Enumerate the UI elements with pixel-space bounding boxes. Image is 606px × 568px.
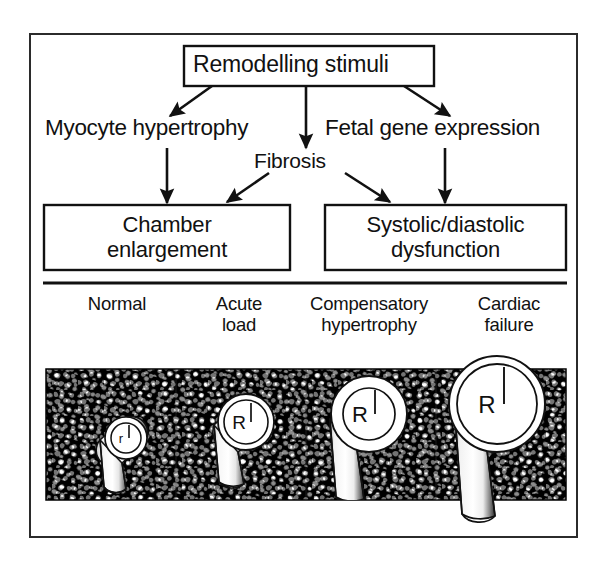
figure-outer-frame — [29, 33, 578, 538]
chamber-enlargement-label-group: Chamber enlargement — [44, 205, 290, 270]
mediator-fibrosis-label: Fibrosis — [254, 149, 326, 173]
stage-caption-normal: Normal — [62, 294, 172, 315]
stage-caption-compensatory: Compensatory hypertrophy — [285, 294, 453, 335]
stage-caption-compensatory-line2: hypertrophy — [321, 315, 417, 336]
mediator-fetal-gene-expression-label: Fetal gene expression — [325, 115, 540, 140]
stage-caption-acute-load-line1: Acute — [216, 294, 262, 315]
mediator-myocyte-hypertrophy-label: Myocyte hypertrophy — [45, 115, 248, 140]
chamber-enlargement-line1: Chamber — [122, 213, 211, 238]
stage-caption-acute-load-line2: load — [222, 315, 256, 336]
remodelling-stimuli-label: Remodelling stimuli — [193, 52, 389, 78]
stage-caption-compensatory-line1: Compensatory — [310, 294, 428, 315]
figure-root: r R — [0, 0, 606, 568]
chamber-enlargement-line2: enlargement — [107, 238, 227, 263]
stage-caption-normal-line1: Normal — [88, 294, 146, 315]
dysfunction-label-group: Systolic/diastolic dysfunction — [325, 205, 566, 270]
stage-caption-cardiac-failure-line2: failure — [485, 315, 534, 336]
stage-caption-cardiac-failure: Cardiac failure — [457, 294, 561, 335]
dysfunction-line2: dysfunction — [391, 238, 500, 263]
stage-caption-acute-load: Acute load — [196, 294, 282, 335]
dysfunction-line1: Systolic/diastolic — [367, 213, 525, 238]
stage-caption-cardiac-failure-line1: Cardiac — [478, 294, 540, 315]
